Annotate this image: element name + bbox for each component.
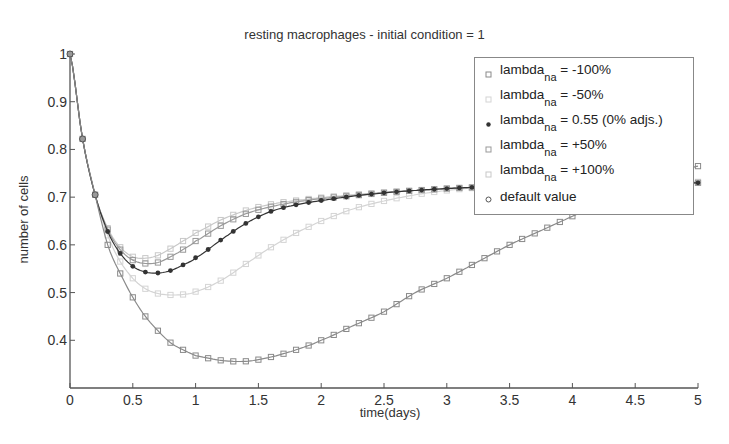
x-tick-label: 5 (694, 392, 702, 408)
y-tick-label: 0.4 (48, 332, 68, 348)
legend-subscript: na (544, 71, 556, 83)
y-tick-label: 0.5 (48, 285, 68, 301)
legend-subscript: na (544, 171, 556, 183)
x-tick-label: 0 (66, 392, 74, 408)
legend-item-default: default value (475, 187, 693, 207)
legend-item-plus100: lambdana = +100% (475, 162, 693, 187)
dot-marker-icon (483, 119, 495, 131)
square-marker-icon (483, 69, 495, 81)
x-tick-label: 2 (317, 392, 325, 408)
y-tick-label: 0.6 (48, 237, 68, 253)
x-tick-label: 4.5 (625, 392, 645, 408)
chart-title: resting macrophages - initial condition … (0, 27, 729, 42)
legend-item-minus100: lambdana = -100% (475, 62, 693, 87)
y-tick-label: 0.9 (48, 94, 68, 110)
legend-subscript: na (544, 96, 556, 108)
x-tick-label: 0.5 (123, 392, 143, 408)
y-tick-label: 0.8 (48, 141, 68, 157)
default-value-markers (67, 51, 98, 198)
x-tick-label: 4 (569, 392, 577, 408)
square-marker-icon (483, 169, 495, 181)
circle-marker-icon (483, 194, 495, 206)
legend-label: lambda (500, 137, 544, 152)
legend-item-plus50: lambdana = +50% (475, 137, 693, 162)
x-tick-label: 3.5 (500, 392, 520, 408)
legend-label: lambda (500, 62, 544, 77)
legend-value: = 0.55 (0% adjs.) (557, 112, 663, 127)
x-tick-label: 1 (192, 392, 200, 408)
legend-item-baseline: lambdana = 0.55 (0% adjs.) (475, 112, 693, 137)
legend-value: = -100% (557, 62, 611, 77)
legend: lambdana = -100% lambdana = -50% lambdan… (474, 57, 694, 215)
legend-value: = -50% (557, 87, 604, 102)
legend-subscript: na (544, 146, 556, 158)
y-tick-label: 0.7 (48, 189, 68, 205)
x-axis-label: time(days) (330, 405, 450, 420)
legend-value: = +50% (557, 137, 607, 152)
legend-label: lambda (500, 162, 544, 177)
square-marker-icon (483, 144, 495, 156)
square-marker-icon (483, 94, 495, 106)
legend-value: = +100% (557, 162, 615, 177)
legend-label: default value (500, 189, 577, 204)
y-tick-label: 1 (59, 46, 67, 62)
legend-label: lambda (500, 112, 544, 127)
legend-label: lambda (500, 87, 544, 102)
legend-item-minus50: lambdana = -50% (475, 87, 693, 112)
x-tick-label: 1.5 (249, 392, 269, 408)
y-axis-label: number of cells (16, 155, 31, 285)
legend-subscript: na (544, 121, 556, 133)
